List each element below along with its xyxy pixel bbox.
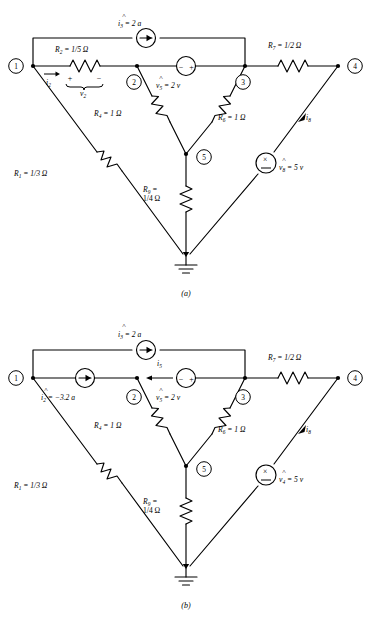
wire-r6-to-n5-b (186, 434, 212, 466)
wire-r4-to-n5-a (170, 122, 186, 154)
wire-r6-to-n5-a (186, 122, 212, 154)
current-arrow-i5-head-b (146, 375, 152, 380)
junction-dot-n3-b (243, 376, 247, 380)
wire-r1-to-gnd-b (122, 483, 183, 566)
resistor-r2-symbol (70, 60, 100, 72)
resistor-r4-symbol (152, 96, 171, 122)
caption-a: (a) (181, 289, 191, 298)
wire-n1-to-r1-b (33, 378, 97, 464)
current-source-i3-label-b: i3 = 2 a (118, 330, 141, 340)
circuit-diagram-b: ˄ i3 = 2 a ˄ i2 = −3.2 a i5 − + ˄ v5 = 2… (0, 308, 372, 617)
junction-dot-n5-a (184, 152, 188, 156)
node-3-label-a: 3 (241, 78, 245, 87)
junction-dot-n3-a (243, 64, 247, 68)
wire-v8-to-gnd-a (190, 174, 258, 254)
voltage-source-v8-label: v8 = 5 v (279, 163, 304, 173)
voltage-source-v5-minus-b: − (179, 375, 184, 384)
caption-b: (b) (181, 601, 191, 610)
node-2-label-a: 2 (132, 78, 136, 87)
voltage-source-v8-marker: × (263, 155, 267, 164)
wire-n1-to-r1-a (33, 66, 97, 152)
junction-dot-n1-a (31, 64, 35, 68)
voltage-source-v4-label: v4 = 5 v (279, 475, 304, 485)
voltage-label-v2: v2 (80, 89, 86, 99)
node-4-label-a: 4 (353, 62, 357, 71)
current-source-i3-hat-b: ˄ (122, 322, 126, 330)
voltage-source-v5-plus: + (189, 63, 194, 72)
voltage-source-v5-label: v5 = 2 v (156, 81, 181, 91)
current-arrow-i2-head-a (56, 72, 61, 77)
circuit-diagram-a: ˄ i3 = 2 a − + ˄ v5 = 2 v R7 = 1/2 Ω R2 … (0, 0, 372, 308)
resistor-r4-symbol-b (152, 408, 171, 434)
node-5-label-a: 5 (202, 153, 206, 162)
resistor-r1-symbol-b (97, 463, 122, 483)
current-label-i8-b: i8 (306, 425, 311, 435)
node-1-label-b: 1 (14, 374, 18, 383)
resistor-r7-label: R7 = 1/2 Ω (267, 41, 302, 51)
wire-r4-to-n5-b (170, 434, 186, 466)
v2-minus-sign: − (97, 74, 102, 83)
resistor-r9-symbol-b (180, 498, 192, 524)
junction-dot-n2-a (135, 64, 139, 68)
resistor-r1-label-b: R1 = 1/3 Ω (13, 481, 48, 491)
circuit-svg-a: ˄ i3 = 2 a − + ˄ v5 = 2 v R7 = 1/2 Ω R2 … (0, 0, 372, 308)
resistor-r9-symbol (180, 186, 192, 212)
junction-dot-n4-b (336, 376, 340, 380)
v2-brace (66, 84, 103, 90)
wire-n4-to-v8-a (274, 66, 338, 152)
wire-n4-to-v4-b (274, 378, 338, 464)
resistor-r4-label: R4 = 1 Ω (93, 109, 122, 119)
current-source-i3-label: i3 = 2 a (118, 19, 141, 29)
resistor-r1-label: R1 = 1/3 Ω (13, 169, 48, 179)
resistor-r6-label: R6 = 1 Ω (217, 113, 246, 123)
current-label-i5: i5 (157, 359, 162, 369)
node-4-label-b: 4 (353, 374, 357, 383)
node-1-label-a: 1 (14, 62, 18, 71)
junction-dot-n5-b (184, 464, 188, 468)
circuit-figure-page: ˄ i3 = 2 a − + ˄ v5 = 2 v R7 = 1/2 Ω R2 … (0, 0, 372, 617)
wire-r1-to-gnd-a (122, 171, 183, 254)
node-5-label-b: 5 (202, 465, 206, 474)
junction-dot-n4-a (336, 64, 340, 68)
node-2-label-b: 2 (132, 393, 136, 402)
resistor-r7-label-b: R7 = 1/2 Ω (267, 353, 302, 363)
resistor-r1-symbol (97, 151, 122, 171)
resistor-r6-label-b: R6 = 1 Ω (217, 425, 246, 435)
v2-plus-sign: + (68, 74, 73, 83)
junction-dot-n2-b (135, 376, 139, 380)
wire-v4-to-gnd-b (190, 486, 258, 566)
voltage-source-v5-minus: − (179, 63, 184, 72)
voltage-source-v5-plus-b: + (189, 375, 194, 384)
node-3-label-b: 3 (241, 393, 245, 402)
current-source-i2-label: i2 = −3.2 a (41, 393, 75, 403)
junction-dot-n1-b (31, 376, 35, 380)
resistor-r7-symbol-b (278, 372, 308, 384)
voltage-source-v5-label-b: v5 = 2 v (156, 393, 181, 403)
current-label-i8-a: i8 (306, 113, 311, 123)
resistor-r4-label-b: R4 = 1 Ω (93, 421, 122, 431)
resistor-r7-symbol (278, 60, 308, 72)
resistor-r2-label: R2 = 1/5 Ω (54, 45, 89, 55)
resistor-r9-label-line2: 1/4 Ω (143, 194, 161, 203)
voltage-source-v4-marker: × (263, 467, 267, 476)
resistor-r9-label-line2-b: 1/4 Ω (143, 506, 161, 515)
circuit-svg-b: ˄ i3 = 2 a ˄ i2 = −3.2 a i5 − + ˄ v5 = 2… (0, 308, 372, 617)
